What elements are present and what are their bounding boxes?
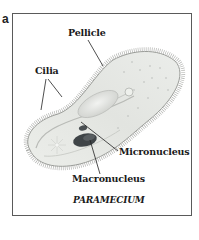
cilia-leader-line-2 <box>48 79 62 97</box>
label-pellicle: Pellicle <box>68 27 106 38</box>
pellicle-leader-line <box>88 40 103 66</box>
label-micronucleus: Micronucleus <box>119 146 189 157</box>
label-macronucleus: Macronucleus <box>72 173 145 184</box>
label-cilia: Cilia <box>35 65 59 76</box>
cilia-leader-line-1 <box>41 79 46 110</box>
figure-caption: PARAMECIUM <box>73 195 145 205</box>
